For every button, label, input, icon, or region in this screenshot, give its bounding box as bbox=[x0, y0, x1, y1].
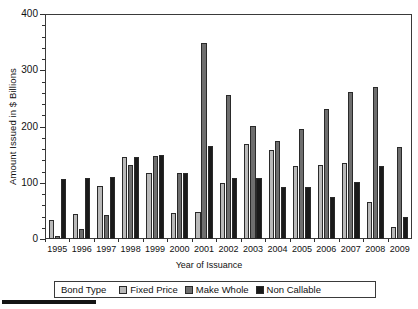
bar bbox=[324, 109, 329, 239]
bar bbox=[373, 87, 378, 239]
scan-artifact-bar bbox=[2, 300, 96, 304]
bar bbox=[122, 157, 127, 239]
bar bbox=[171, 213, 176, 239]
bar bbox=[348, 92, 353, 239]
legend-swatch-icon bbox=[256, 286, 264, 294]
legend-item-label: Non Callable bbox=[267, 284, 321, 295]
bar bbox=[226, 95, 231, 239]
bar bbox=[250, 126, 255, 239]
x-tick-mark bbox=[118, 239, 119, 242]
bar bbox=[177, 173, 182, 239]
bar bbox=[269, 150, 274, 239]
bar bbox=[201, 43, 206, 239]
x-tick-mark bbox=[143, 239, 144, 242]
bar bbox=[318, 165, 323, 239]
x-tick-mark bbox=[388, 239, 389, 242]
legend-item: Make Whole bbox=[185, 284, 249, 295]
bar bbox=[244, 144, 249, 239]
bar bbox=[153, 156, 158, 239]
x-tick-mark bbox=[167, 239, 168, 242]
bar-chart: Amount Issued in $ Billions 010020030040… bbox=[0, 0, 418, 309]
x-tick-mark bbox=[339, 239, 340, 242]
x-axis-title: Year of Issuance bbox=[0, 260, 418, 270]
bar bbox=[49, 220, 54, 239]
legend-swatch-icon bbox=[185, 286, 193, 294]
bar bbox=[61, 179, 66, 239]
bar bbox=[391, 227, 396, 239]
bar bbox=[354, 182, 359, 239]
bar bbox=[220, 183, 225, 239]
bar bbox=[97, 186, 102, 239]
bar bbox=[183, 173, 188, 239]
bar bbox=[128, 165, 133, 239]
bar bbox=[342, 163, 347, 239]
legend-item: Non Callable bbox=[256, 284, 321, 295]
bar bbox=[305, 187, 310, 239]
x-tick-mark bbox=[69, 239, 70, 242]
bar bbox=[403, 217, 408, 240]
x-tick-mark bbox=[290, 239, 291, 242]
bar bbox=[146, 173, 151, 239]
legend-item-label: Fixed Price bbox=[130, 284, 178, 295]
bar bbox=[379, 166, 384, 239]
bar bbox=[55, 236, 60, 239]
x-tick-mark bbox=[45, 239, 46, 242]
bar bbox=[330, 197, 335, 239]
bar bbox=[73, 214, 78, 239]
y-tick-label: 400 bbox=[12, 8, 38, 19]
y-tick-label: 0 bbox=[12, 233, 38, 244]
y-tick-label: 100 bbox=[12, 177, 38, 188]
bar bbox=[85, 178, 90, 239]
legend-swatch-icon bbox=[119, 286, 127, 294]
bar bbox=[208, 146, 213, 239]
legend-item-label: Make Whole bbox=[196, 284, 249, 295]
bar bbox=[397, 147, 402, 239]
legend: Bond Type Fixed PriceMake WholeNon Calla… bbox=[54, 281, 376, 298]
legend-item: Fixed Price bbox=[119, 284, 178, 295]
x-tick-mark bbox=[216, 239, 217, 242]
x-tick-mark bbox=[265, 239, 266, 242]
bar bbox=[134, 157, 139, 239]
y-tick-label: 200 bbox=[12, 121, 38, 132]
bar bbox=[104, 215, 109, 239]
bar bbox=[195, 212, 200, 239]
x-tick-label: 2009 bbox=[385, 244, 415, 254]
y-tick-label: 300 bbox=[12, 64, 38, 75]
bar bbox=[281, 187, 286, 239]
x-tick-mark bbox=[314, 239, 315, 242]
x-tick-mark bbox=[363, 239, 364, 242]
legend-title: Bond Type bbox=[61, 284, 106, 295]
x-tick-mark bbox=[192, 239, 193, 242]
bar bbox=[256, 178, 261, 239]
bar bbox=[110, 177, 115, 239]
bar bbox=[367, 202, 372, 239]
bar bbox=[159, 155, 164, 239]
bar bbox=[275, 141, 280, 239]
bar bbox=[232, 178, 237, 239]
bar bbox=[79, 229, 84, 239]
bar bbox=[293, 166, 298, 239]
x-tick-mark bbox=[241, 239, 242, 242]
x-tick-mark bbox=[94, 239, 95, 242]
bar bbox=[299, 129, 304, 239]
